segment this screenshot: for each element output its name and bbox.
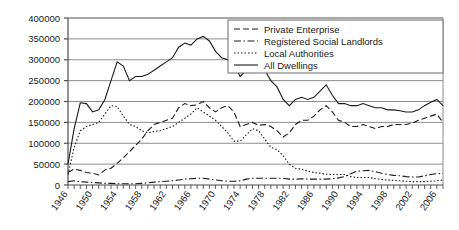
chart-container: 0500001000001500002000002500003000003500… [0,0,459,230]
x-tick-label: 1954 [98,189,119,213]
x-tick-label: 2002 [393,189,414,213]
x-tick-label: 1962 [147,189,168,213]
x-tick-label: 1946 [49,189,70,213]
y-tick-label: 0 [55,180,60,191]
x-tick-label: 1982 [270,189,291,213]
legend-group: Private EnterpriseRegistered Social Land… [228,20,443,73]
x-tick-label: 1986 [294,189,315,213]
legend-label: All Dwellings [264,60,318,71]
y-tick-label: 150000 [28,117,60,128]
legend-label: Private Enterprise [264,24,340,35]
series-line-registered-social-landlords [68,170,443,183]
y-tick-label: 100000 [28,138,60,149]
legend-label: Registered Social Landlords [264,36,383,47]
y-tick-label: 400000 [28,13,60,24]
line-chart: 0500001000001500002000002500003000003500… [0,0,459,230]
x-tick-label: 1966 [171,189,192,213]
xtick-labels-group: 1946195019541958196219661970197419781982… [49,189,439,213]
y-tick-label: 300000 [28,54,60,65]
ytick-labels-group: 0500001000001500002000002500003000003500… [28,13,60,191]
x-tick-label: 1974 [221,189,242,213]
x-tick-label: 1994 [344,189,365,213]
x-tick-label: 1978 [245,189,266,213]
y-tick-label: 350000 [28,33,60,44]
x-tick-label: 1998 [368,189,389,213]
x-tick-label: 2006 [417,189,438,213]
y-tick-label: 200000 [28,96,60,107]
x-tick-label: 1990 [319,189,340,213]
x-tick-label: 1970 [196,189,217,213]
legend-label: Local Authorities [264,48,334,59]
y-tick-label: 250000 [28,75,60,86]
x-tick-label: 1950 [73,189,94,213]
x-tick-label: 1958 [122,189,143,213]
y-tick-label: 50000 [34,159,60,170]
